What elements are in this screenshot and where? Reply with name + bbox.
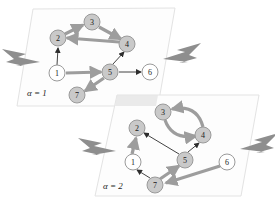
node-1[interactable]: 1 bbox=[49, 65, 65, 81]
node-2-label: 2 bbox=[56, 34, 60, 43]
layer-alpha-2: 1 2 3 4 5 bbox=[78, 95, 275, 196]
node-5-label: 5 bbox=[108, 68, 112, 77]
multiplex-network-figure: 1 2 3 4 5 bbox=[0, 0, 275, 207]
layer-alpha-1: 1 2 3 4 5 bbox=[2, 8, 201, 106]
layer-caption-alpha-2: α = 2 bbox=[103, 181, 123, 191]
node-6[interactable]: 6 bbox=[219, 154, 235, 170]
node-4[interactable]: 4 bbox=[195, 127, 211, 143]
node-1-label: 1 bbox=[55, 69, 59, 78]
edge-1-to-5 bbox=[66, 72, 101, 73]
figure-canvas: 1 2 3 4 5 bbox=[0, 0, 275, 207]
node-2-label: 2 bbox=[135, 124, 139, 133]
node-6[interactable]: 6 bbox=[142, 64, 158, 80]
node-7-label: 7 bbox=[75, 91, 79, 100]
layer-caption-alpha-1: α = 1 bbox=[27, 88, 47, 98]
node-2[interactable]: 2 bbox=[50, 30, 66, 46]
plane-overlap-region bbox=[115, 95, 158, 106]
node-7[interactable]: 7 bbox=[69, 87, 85, 103]
node-4-label: 4 bbox=[201, 131, 205, 140]
node-3-label: 3 bbox=[90, 18, 94, 27]
node-6-label: 6 bbox=[225, 158, 229, 167]
node-1-label: 1 bbox=[131, 158, 135, 167]
node-5-label: 5 bbox=[183, 156, 187, 165]
node-5[interactable]: 5 bbox=[102, 64, 118, 80]
node-7-label: 7 bbox=[153, 181, 157, 190]
node-4-label: 4 bbox=[125, 40, 129, 49]
node-7[interactable]: 7 bbox=[147, 177, 163, 193]
node-2[interactable]: 2 bbox=[129, 120, 145, 136]
node-3-label: 3 bbox=[161, 108, 165, 117]
node-4[interactable]: 4 bbox=[119, 36, 135, 52]
node-3[interactable]: 3 bbox=[84, 14, 100, 30]
node-1[interactable]: 1 bbox=[125, 154, 141, 170]
node-3[interactable]: 3 bbox=[155, 104, 171, 120]
node-5[interactable]: 5 bbox=[177, 152, 193, 168]
node-6-label: 6 bbox=[148, 68, 152, 77]
